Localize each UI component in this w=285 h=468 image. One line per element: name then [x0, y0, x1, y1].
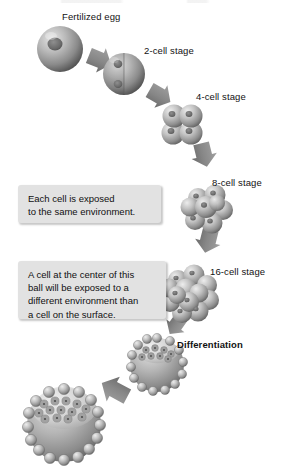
stage-fertilized-egg [37, 26, 83, 72]
stage-two-cell [103, 53, 145, 95]
callout-same-environment: Each cell is exposed to the same environ… [18, 185, 161, 223]
embryonic-development-diagram: Fertilized egg 2-cell stage 4-cell stage… [0, 0, 285, 468]
diagram-canvas [0, 0, 285, 468]
arrow-blastocyst-to-blastocyst [95, 371, 134, 409]
arrow-4cell-to-8cell [188, 140, 219, 170]
stage-eight-cell [181, 185, 234, 234]
callout-different-environment: A cell at the center of this ball will b… [18, 261, 166, 319]
stage-label-four-cell: 4-cell stage [196, 91, 246, 102]
stage-label-sixteen-cell: 16-cell stage [210, 266, 265, 277]
stage-label-fertilized-egg: Fertilized egg [62, 11, 120, 22]
stage-four-cell [162, 105, 203, 145]
stage-label-two-cell: 2-cell stage [144, 45, 194, 56]
stage-blastocyst-late [22, 383, 105, 465]
stage-label-differentiation: Differentiation [177, 339, 243, 350]
stage-label-eight-cell: 8-cell stage [212, 177, 262, 188]
